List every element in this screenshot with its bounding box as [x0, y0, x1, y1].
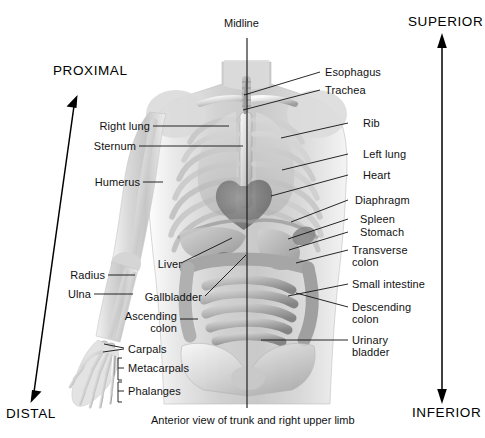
label-right-lung: Right lung	[30, 120, 150, 133]
label-diaphragm: Diaphragm	[355, 194, 410, 207]
label-sternum: Sternum	[30, 140, 136, 153]
label-urinary-bladder-line1: Urinary	[352, 334, 388, 347]
label-urinary-bladder-line2: bladder	[352, 346, 389, 359]
label-ascending-colon-line2: colon	[104, 322, 177, 335]
midline-label: Midline	[224, 17, 259, 29]
label-gallbladder: Gallbladder	[120, 291, 202, 304]
direction-label-superior: SUPERIOR	[408, 14, 483, 29]
direction-label-distal: DISTAL	[6, 406, 56, 421]
label-ulna: Ulna	[20, 288, 91, 301]
label-small-intestine: Small intestine	[352, 278, 425, 291]
label-transverse-colon-line1: Transverse	[352, 244, 408, 257]
direction-label-proximal: PROXIMAL	[53, 63, 128, 78]
label-metacarpals: Metacarpals	[128, 362, 189, 375]
label-left-lung: Left lung	[363, 148, 406, 161]
superior-inferior-arrow	[437, 33, 447, 404]
label-esophagus: Esophagus	[325, 66, 381, 79]
label-heart: Heart	[363, 169, 390, 182]
label-descending-colon-line2: colon	[352, 313, 379, 326]
label-phalanges: Phalanges	[128, 385, 181, 398]
label-stomach: Stomach	[360, 226, 404, 239]
label-radius: Radius	[20, 269, 105, 282]
label-trachea: Trachea	[325, 84, 366, 97]
direction-label-inferior: INFERIOR	[412, 405, 481, 420]
label-rib: Rib	[363, 117, 380, 130]
label-descending-colon-line1: Descending	[352, 301, 411, 314]
label-spleen: Spleen	[360, 213, 395, 226]
label-humerus: Humerus	[30, 176, 140, 189]
label-carpals: Carpals	[128, 343, 167, 356]
label-ascending-colon-line1: Ascending	[104, 310, 177, 323]
figure-caption: Anterior view of trunk and right upper l…	[151, 414, 355, 426]
label-liver: Liver	[120, 258, 182, 271]
label-transverse-colon-line2: colon	[352, 256, 379, 269]
